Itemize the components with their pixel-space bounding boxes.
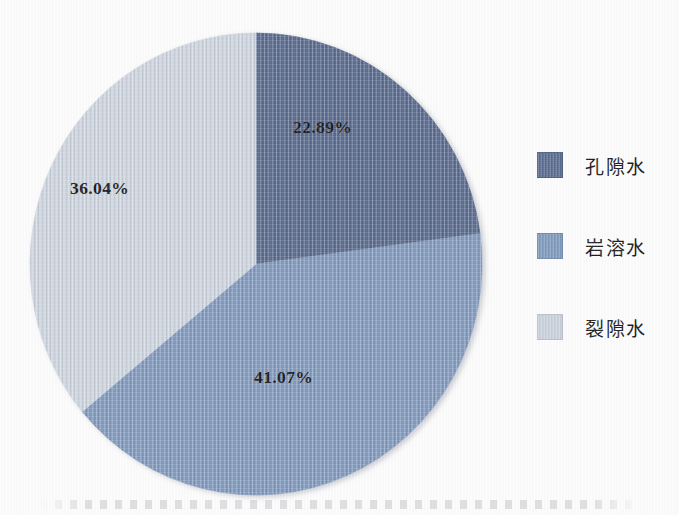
pie-chart-figure: 22.89% 41.07% 36.04% 孔隙水 岩溶水 裂隙水 <box>0 0 679 515</box>
pie-svg <box>0 0 515 515</box>
pie-slice-value-pore-water: 22.89% <box>293 117 352 138</box>
pie-slice-texture-overlay <box>30 33 482 495</box>
chart-legend: 孔隙水 岩溶水 裂隙水 <box>537 152 677 340</box>
legend-swatch-fissure-water <box>537 314 563 340</box>
legend-label-karst-water: 岩溶水 <box>585 233 647 260</box>
pie-slice-value-fissure-water: 36.04% <box>70 178 129 199</box>
legend-swatch-karst-water <box>537 233 563 259</box>
legend-item-fissure-water[interactable]: 裂隙水 <box>537 314 677 340</box>
pie-slice-value-karst-water: 41.07% <box>254 367 313 388</box>
legend-item-karst-water[interactable]: 岩溶水 <box>537 233 677 259</box>
legend-label-pore-water: 孔隙水 <box>585 152 647 179</box>
legend-swatch-pore-water <box>537 152 563 178</box>
legend-item-pore-water[interactable]: 孔隙水 <box>537 152 677 178</box>
legend-label-fissure-water: 裂隙水 <box>585 314 647 341</box>
pie-plot-area: 22.89% 41.07% 36.04% <box>0 0 515 515</box>
